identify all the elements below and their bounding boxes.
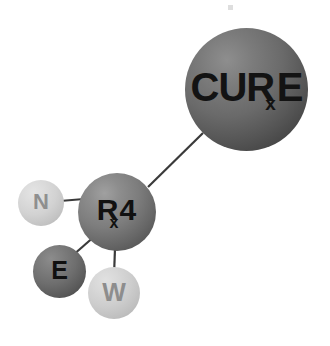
cure-label-trail: E (277, 67, 303, 107)
bond-rx4-cure (148, 133, 203, 187)
logo-canvas: CURxE Rx4 N E W (0, 0, 330, 346)
n-node-label: N (33, 191, 49, 213)
cure-node-label: CURxE (191, 67, 303, 107)
cure-node: CURxE (185, 28, 308, 151)
n-node: N (18, 180, 64, 226)
cure-label-lead: CUR (191, 67, 275, 107)
rx4-node-label: Rx4 (97, 195, 135, 225)
rx4-label-rx-subscript: x (110, 215, 118, 231)
e-node-label: E (51, 258, 68, 283)
scan-artifact-speck (228, 5, 233, 10)
cure-label-rx-subscript: x (265, 94, 275, 113)
w-node: W (88, 267, 140, 319)
w-node-label: W (102, 280, 126, 305)
e-node: E (33, 245, 86, 298)
rx4-label-trail: 4 (119, 195, 135, 225)
rx4-node: Rx4 (78, 173, 156, 251)
